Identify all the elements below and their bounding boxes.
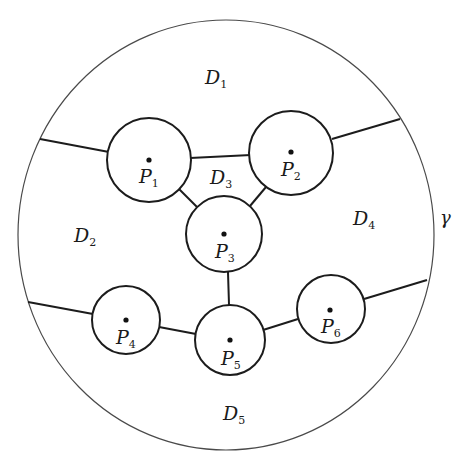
edge-p1-p2 (190, 155, 251, 158)
point-p5-dot (227, 337, 232, 342)
label-d1: D1 (204, 66, 227, 91)
label-d4: D4 (352, 207, 375, 232)
edge-p6-gamma (364, 280, 427, 299)
edge-gamma-p4 (28, 302, 93, 314)
edge-p1-p3 (179, 189, 197, 207)
point-p3-dot (221, 231, 226, 236)
edge-p5-p6 (263, 319, 298, 330)
label-d3: D3 (209, 166, 232, 191)
domain-partition-figure: P1 P2 P3 P4 P5 P6 D1 D2 (0, 0, 468, 467)
point-p1-dot (146, 157, 151, 162)
label-d2: D2 (73, 224, 96, 249)
label-gamma: γ (440, 207, 451, 228)
edge-gamma-p1 (40, 139, 109, 152)
point-p4-dot (123, 317, 128, 322)
point-p2-dot (288, 149, 293, 154)
edge-p4-p5 (159, 327, 196, 334)
point-p6-dot (327, 307, 332, 312)
edge-p3-p5 (228, 272, 229, 305)
edge-p2-gamma (332, 119, 400, 139)
label-d5: D5 (222, 402, 245, 427)
edge-p2-p3 (250, 187, 266, 206)
